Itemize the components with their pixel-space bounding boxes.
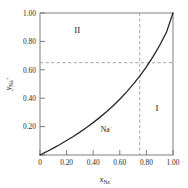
x-axis-title-superscript: +	[110, 176, 113, 181]
x-axis-tick-labels: 0 0.20 0.40 0.60 0.80 1.00	[38, 158, 180, 167]
y-ticklabel-0.20: 0.20	[23, 122, 36, 131]
x-axis-ticks	[40, 150, 173, 155]
y-ticklabel-0.40: 0.40	[23, 94, 36, 103]
y-axis-tick-labels: 1.00 0.80 0.60 0.40 0.20	[23, 9, 36, 132]
x-ticklabel-0.20: 0.20	[60, 158, 73, 167]
x-ticklabel-1.00: 1.00	[167, 158, 180, 167]
y-ticklabel-0.60: 0.60	[23, 66, 36, 75]
y-axis-title: yNa+	[4, 77, 14, 91]
species-label: Na+	[101, 125, 113, 134]
equilibrium-chart-figure: 1.00 0.80 0.60 0.40 0.20 0 0.20 0.40 0.6…	[0, 0, 188, 188]
region-one-label: I	[156, 103, 159, 113]
x-ticklabel-0: 0	[38, 158, 42, 167]
y-axis-title-superscript: +	[5, 77, 10, 80]
plot-frame	[40, 13, 173, 155]
equilibrium-curve	[40, 13, 173, 155]
x-ticklabel-0.40: 0.40	[87, 158, 100, 167]
x-ticklabel-0.80: 0.80	[140, 158, 153, 167]
region-two-label: II	[74, 25, 80, 35]
x-ticklabel-0.60: 0.60	[113, 158, 126, 167]
species-label-superscript: +	[110, 125, 113, 130]
y-ticklabel-1.00: 1.00	[23, 9, 36, 18]
y-axis-ticks	[40, 13, 45, 155]
y-ticklabel-0.80: 0.80	[23, 37, 36, 46]
x-axis-title: xNa+	[99, 175, 113, 185]
chart-canvas: 1.00 0.80 0.60 0.40 0.20 0 0.20 0.40 0.6…	[0, 0, 188, 188]
